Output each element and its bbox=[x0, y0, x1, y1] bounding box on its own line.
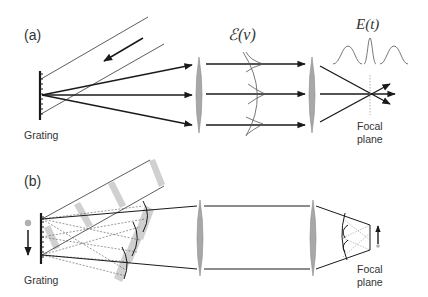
incoming-beam-edge-top-b bbox=[42, 160, 150, 219]
diffracted-ray-top bbox=[42, 65, 192, 95]
focal-wavefront-arcs bbox=[342, 213, 348, 260]
focal-b-label-line1: Focal bbox=[357, 263, 383, 275]
lens-1-icon bbox=[196, 57, 202, 133]
incoming-beam-edge-top bbox=[41, 17, 148, 79]
panel-b-label: (b) bbox=[24, 173, 41, 189]
pulse-shaper-diagram: (a) Grating bbox=[0, 0, 428, 297]
lens-b1-icon bbox=[197, 200, 203, 276]
panel-a-label: (a) bbox=[24, 27, 41, 43]
spectrum-label: ℰ(ν) bbox=[228, 26, 256, 44]
panel-a: (a) Grating bbox=[24, 16, 408, 145]
time-label: E(t) bbox=[355, 16, 379, 33]
grating-b-icon bbox=[41, 213, 44, 264]
incoming-beam-edge-bottom bbox=[41, 44, 164, 114]
diffracted-ray-bottom bbox=[42, 95, 192, 125]
lens-b2-icon bbox=[310, 200, 316, 276]
envelope-ray-top bbox=[42, 206, 197, 219]
grating-b-label: Grating bbox=[24, 274, 59, 286]
focal-label-line2: plane bbox=[357, 133, 383, 145]
pulse-train-curve bbox=[333, 38, 408, 64]
focal-label-line1: Focal bbox=[357, 120, 383, 132]
focal-motion-dot bbox=[376, 244, 380, 248]
focal-b-label-line2: plane bbox=[357, 276, 383, 288]
panel-b: (b) Grating bbox=[24, 159, 383, 288]
lens-2-icon bbox=[309, 57, 315, 133]
grating-label: Grating bbox=[24, 129, 59, 141]
diffracted-dashed-rays bbox=[42, 206, 145, 276]
focus-ray-top bbox=[320, 66, 390, 104]
focus-ray-bottom bbox=[320, 84, 390, 122]
incoming-direction-arrow bbox=[104, 38, 143, 61]
motion-start-dot bbox=[25, 220, 31, 226]
